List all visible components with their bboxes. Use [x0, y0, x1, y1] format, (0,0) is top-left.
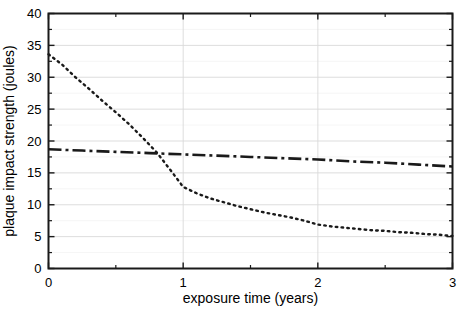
x-tick-label: 1: [180, 275, 187, 290]
y-tick-label: 0: [34, 261, 41, 276]
y-tick-label: 25: [27, 102, 41, 117]
y-tick-label: 20: [27, 134, 41, 149]
y-tick-label: 30: [27, 70, 41, 85]
y-tick-label: 10: [27, 197, 41, 212]
x-axis-title: exposure time (years): [183, 290, 318, 306]
y-tick-label: 5: [34, 229, 41, 244]
x-tick-label: 2: [314, 275, 321, 290]
x-tick-label: 0: [45, 275, 52, 290]
plaque-impact-strength-chart: 05101520253035400123exposure time (years…: [0, 0, 467, 315]
y-tick-label: 15: [27, 165, 41, 180]
x-tick-label: 3: [449, 275, 456, 290]
y-tick-label: 35: [27, 38, 41, 53]
y-axis-title: plaque impact strength (joules): [1, 45, 17, 236]
chart-figure: 05101520253035400123exposure time (years…: [0, 0, 467, 315]
y-tick-label: 40: [27, 6, 41, 21]
